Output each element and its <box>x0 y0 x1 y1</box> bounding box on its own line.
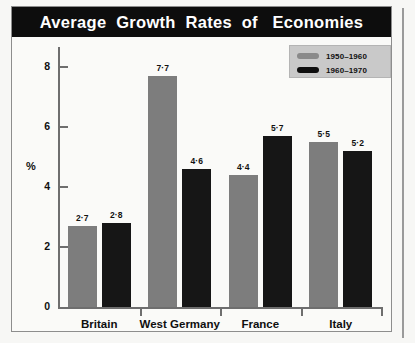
chart-title-bar: Average Growth Rates of Economies <box>12 7 391 37</box>
bar-value-label: 5·5 <box>318 129 330 139</box>
bar-value-label: 4·6 <box>191 156 203 166</box>
bar: 5·7 <box>263 136 292 307</box>
y-axis-tick-label: 4 <box>20 180 50 192</box>
bar: 7·7 <box>148 76 177 307</box>
bar-value-label: 7·7 <box>157 63 169 73</box>
bar-value-label: 2·8 <box>110 210 122 220</box>
y-axis-tick-label: 0 <box>20 300 50 312</box>
bar: 2·8 <box>102 223 131 307</box>
y-axis-tick-label: 8 <box>20 60 50 72</box>
legend-item-label: 1960–1970 <box>326 66 367 75</box>
chart-title: Average Growth Rates of Economies <box>40 13 363 32</box>
legend-item-label: 1950–1960 <box>326 52 367 61</box>
y-axis-tick-label: 6 <box>20 120 50 132</box>
bar-value-label: 5·2 <box>352 138 364 148</box>
bar: 4·4 <box>229 175 258 307</box>
y-axis-tick <box>60 126 68 128</box>
bar-value-label: 5·7 <box>271 123 283 133</box>
chart-legend: 1950–1960 1960–1970 <box>289 45 391 78</box>
bar: 2·7 <box>68 226 97 307</box>
bar-value-label: 2·7 <box>76 213 88 223</box>
legend-item: 1950–1960 <box>297 50 390 62</box>
bar: 5·5 <box>309 142 338 307</box>
y-axis-line <box>58 47 60 309</box>
light-gray-swatch-icon <box>297 53 319 59</box>
group-tick <box>220 309 222 316</box>
y-axis-tick <box>60 186 68 188</box>
column-divider <box>402 8 404 338</box>
dark-swatch-icon <box>297 67 319 73</box>
y-axis-tick <box>60 66 68 68</box>
y-axis-title: % <box>26 160 36 172</box>
group-tick <box>140 309 142 316</box>
bar-value-label: 4·4 <box>237 162 249 172</box>
group-tick <box>381 309 383 316</box>
category-label: Britain <box>59 318 140 330</box>
legend-item: 1960–1970 <box>297 64 390 76</box>
category-label: France <box>220 318 301 330</box>
group-tick <box>301 309 303 316</box>
category-label: West Germany <box>140 318 221 330</box>
figure-page: Average Growth Rates of Economies 02468 … <box>0 0 415 343</box>
bar: 5·2 <box>343 151 372 307</box>
category-label: Italy <box>301 318 382 330</box>
y-axis-tick-label: 2 <box>20 240 50 252</box>
bar: 4·6 <box>182 169 211 307</box>
chart-area: 02468 % 2·72·87·74·64·45·75·55·2 Britain… <box>12 37 391 331</box>
